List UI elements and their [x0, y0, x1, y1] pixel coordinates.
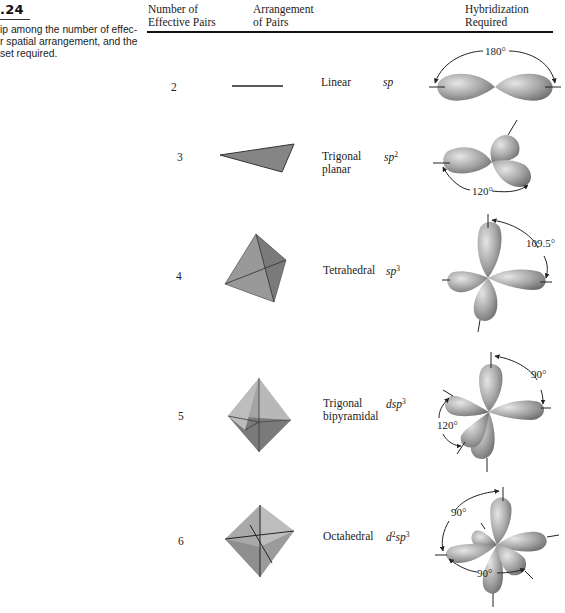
row-hybridization: sp2	[384, 150, 398, 163]
hyb-base: sp	[383, 76, 393, 88]
header-line: Arrangement	[253, 3, 314, 16]
sp2-orbitals-icon: 120°	[430, 115, 565, 210]
row-arrangement: Linear	[321, 76, 351, 89]
triangle-shape-icon	[218, 142, 298, 177]
row-pairs-count: 2	[171, 81, 177, 93]
hyb-base: sp	[396, 531, 406, 543]
row-pairs-count: 6	[178, 535, 184, 547]
tetrahedron-shape-icon	[222, 232, 292, 304]
header-effective-pairs: Number of Effective Pairs	[148, 3, 216, 29]
arrangement-line: Trigonal	[322, 150, 361, 163]
caption-line: r spatial arrangement, and the	[0, 36, 115, 48]
sp-orbitals-icon: 180°	[425, 45, 565, 110]
dsp3-orbitals-icon: 90° 120°	[425, 350, 565, 485]
angle-label: 90°	[531, 368, 546, 380]
arrangement-line: Trigonal	[323, 397, 379, 410]
row-arrangement: Trigonal planar	[322, 150, 361, 176]
angle-label: 109.5°	[526, 237, 555, 249]
header-line: Hybridization	[465, 3, 529, 16]
angle-label: 180°	[485, 45, 506, 57]
hyb-sup: 3	[402, 397, 406, 406]
arrangement-line: Octahedral	[323, 530, 373, 543]
linear-shape-icon	[230, 82, 285, 90]
row-hybridization: sp	[383, 76, 393, 88]
angle-label: 90°	[451, 506, 466, 518]
header-rule	[147, 31, 553, 33]
figure-number: .24	[0, 2, 24, 17]
row-arrangement: Octahedral	[323, 530, 373, 543]
hyb-base: sp	[386, 265, 396, 277]
row-hybridization: d2sp3	[386, 530, 409, 543]
caption-text: ip among the number of effec- r spatial …	[0, 24, 115, 60]
angle-label: 120°	[437, 419, 458, 431]
arrangement-line: Linear	[321, 76, 351, 89]
angle-label: 120°	[472, 185, 493, 197]
row-pairs-count: 3	[177, 151, 183, 163]
hyb-base: sp	[392, 398, 402, 410]
header-arrangement: Arrangement of Pairs	[253, 3, 314, 29]
row-arrangement: Trigonal bipyramidal	[323, 397, 379, 423]
arrangement-line: Tetrahedral	[323, 264, 375, 277]
hyb-sup: 3	[396, 264, 400, 273]
header-hybridization: Hybridization Required	[465, 3, 529, 29]
header-line: of Pairs	[253, 16, 314, 29]
hyb-sup: 2	[394, 150, 398, 159]
header-line: Required	[465, 16, 529, 29]
row-hybridization: dsp3	[386, 397, 406, 410]
arrangement-line: bipyramidal	[323, 410, 379, 423]
caption-rule	[0, 19, 30, 20]
row-arrangement: Tetrahedral	[323, 264, 375, 277]
row-pairs-count: 4	[176, 270, 182, 282]
caption-line: set required.	[0, 48, 115, 60]
sp3-orbitals-icon: 109.5°	[440, 212, 565, 352]
hyb-base: sp	[384, 151, 394, 163]
arrangement-line: planar	[322, 163, 361, 176]
row-pairs-count: 5	[178, 410, 184, 422]
caption-line: ip among the number of effec-	[0, 24, 115, 36]
row-hybridization: sp3	[386, 264, 400, 277]
octahedron-shape-icon	[222, 503, 297, 579]
angle-label: 90°	[477, 567, 492, 579]
header-line: Effective Pairs	[148, 16, 216, 29]
hyb-sup: 3	[406, 530, 410, 539]
header-line: Number of	[148, 3, 216, 16]
d2sp3-orbitals-icon: 90° 90°	[425, 483, 565, 613]
trigonal-bipyramid-shape-icon	[225, 376, 295, 454]
